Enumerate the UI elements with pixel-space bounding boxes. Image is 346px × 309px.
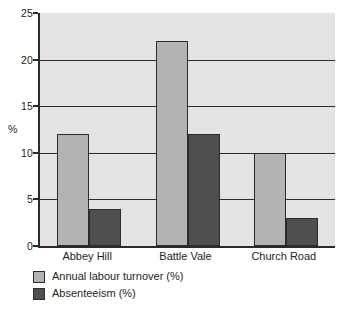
bar (254, 153, 286, 246)
legend-item-series-a: Annual labour turnover (%) (33, 268, 323, 285)
gridline (40, 60, 335, 61)
y-axis-tick-label: 0 (5, 241, 33, 252)
y-axis-tick-label: 15 (5, 101, 33, 112)
y-axis-tick-label: 25 (5, 8, 33, 19)
legend-swatch-absenteeism (33, 288, 45, 300)
bar (57, 134, 89, 246)
legend-label-absenteeism: Absenteeism (%) (52, 287, 136, 300)
y-axis-tick-label: 10 (5, 148, 33, 159)
legend-label-annual-labour-turnover: Annual labour turnover (%) (52, 270, 183, 283)
bar (156, 41, 188, 246)
x-axis-category-label: Battle Vale (136, 250, 234, 263)
y-axis-tick-label: 5 (5, 194, 33, 205)
bar (89, 209, 121, 246)
legend-item-series-b: Absenteeism (%) (33, 285, 323, 302)
gridline (40, 106, 335, 107)
bar (188, 134, 220, 246)
bar-chart-figure: % 0510152025 Abbey HillBattle ValeChurch… (0, 0, 346, 309)
y-axis-tick-label: 20 (5, 55, 33, 66)
y-axis-title: % (8, 124, 34, 135)
legend-swatch-annual-labour-turnover (33, 271, 45, 283)
bar (286, 218, 318, 246)
plot-inner (40, 13, 335, 246)
x-axis-category-label: Church Road (235, 250, 333, 263)
x-axis-category-label: Abbey Hill (38, 250, 136, 263)
legend: Annual labour turnover (%) Absenteeism (… (33, 268, 323, 302)
plot-area (38, 13, 335, 248)
